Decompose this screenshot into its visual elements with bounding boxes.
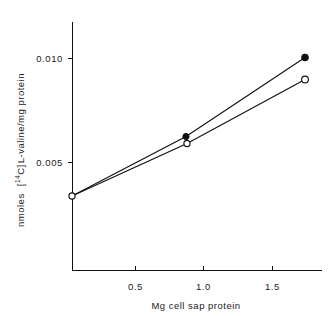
y-axis-title-suffix: L-valine/mg protein <box>15 73 26 163</box>
y-axis-title-superscript: 14 <box>14 175 21 183</box>
x-axis-title: Mg cell sap protein <box>151 300 240 311</box>
series-filled-line <box>72 58 305 197</box>
y-axis-title-prefix: nmoles <box>15 193 26 227</box>
y-axis-title-bracket-close: ] <box>15 164 26 167</box>
data-point-open-mid <box>184 140 190 146</box>
x-tick-label-10: 1.0 <box>196 281 211 292</box>
data-point-open-origin <box>69 193 75 199</box>
svg-text:nmoles [14C]L-valine/m: nmoles [14C]L-valine/mg protein <box>14 73 26 227</box>
y-tick-label-0010: 0.010 <box>36 53 63 64</box>
data-point-filled-mid <box>183 133 189 139</box>
series-filled-circles <box>72 54 308 196</box>
data-point-open-right <box>302 76 309 83</box>
chart-plot-area: 0.010 0.005 0.5 1.0 1.5 Mg cell sap prot… <box>0 0 331 316</box>
data-point-filled-right <box>302 54 309 61</box>
y-axis-title-isotope: C <box>15 167 26 174</box>
x-tick-label-15: 1.5 <box>265 281 280 292</box>
y-tick-label-0005: 0.005 <box>36 157 63 168</box>
x-tick-label-05: 0.5 <box>128 281 143 292</box>
chart-figure: 0.010 0.005 0.5 1.0 1.5 Mg cell sap prot… <box>0 0 331 316</box>
y-axis-title: nmoles [14C]L-valine/mg protein <box>14 73 26 227</box>
